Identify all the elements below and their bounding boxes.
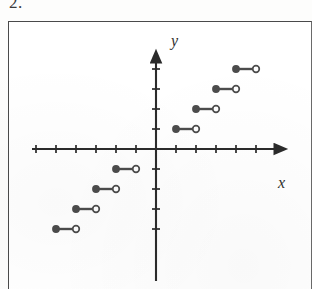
open-endpoint-circle — [93, 206, 100, 213]
open-endpoint-circle — [213, 106, 220, 113]
closed-endpoint-dot — [193, 106, 199, 112]
closed-endpoint-dot — [233, 66, 239, 72]
closed-endpoint-dot — [113, 166, 119, 172]
closed-endpoint-dot — [93, 186, 99, 192]
closed-endpoint-dot — [53, 226, 59, 232]
closed-endpoint-dot — [173, 126, 179, 132]
closed-endpoint-dot — [73, 206, 79, 212]
figure-frame: x y — [8, 21, 312, 289]
open-endpoint-circle — [133, 166, 140, 173]
y-axis-label: y — [171, 33, 178, 49]
open-endpoint-circle — [193, 126, 200, 133]
coordinate-plane-svg — [9, 22, 312, 289]
problem-number: 2. — [9, 0, 23, 11]
open-endpoint-circle — [253, 66, 260, 73]
plot-area: x y — [9, 22, 312, 289]
open-endpoint-circle — [113, 186, 120, 193]
closed-endpoint-dot — [213, 86, 219, 92]
open-endpoint-circle — [233, 86, 240, 93]
x-axis-label: x — [278, 175, 285, 191]
open-endpoint-circle — [73, 226, 80, 233]
